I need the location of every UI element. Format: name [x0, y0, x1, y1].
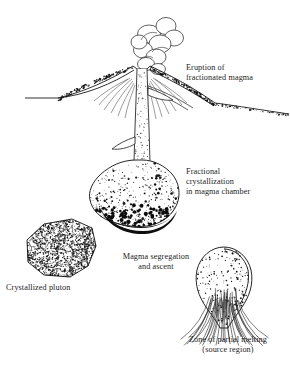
label-crystallized-pluton: Crystallized pluton	[6, 283, 70, 293]
eruption-cloud	[131, 18, 184, 75]
label-magma-segregation-and-ascent: Magma segregation and ascent	[108, 252, 204, 272]
cone-layering-left	[94, 78, 135, 118]
label-fractional-crystallization: Fractional crystallization in magma cham…	[186, 167, 250, 198]
volcanic-conduit	[134, 69, 150, 162]
label-zone-of-partial-melting: Zone of partial melting (source region)	[168, 335, 288, 355]
label-eruption-of-fractionated-magma: Eruption of fractionated magma	[186, 63, 253, 83]
partial-melt-zone	[196, 247, 252, 328]
